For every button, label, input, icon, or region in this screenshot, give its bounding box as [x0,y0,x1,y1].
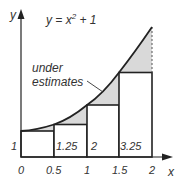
riemann-sum-diagram: y x y = x2 + 1 under estimates 1 1.25 2 … [0,0,185,181]
x-tick-1: 1 [84,164,90,176]
x-tick-2: 2 [148,164,155,176]
x-axis-arrow-icon [162,154,173,161]
x-axis-label: x [167,165,175,179]
rect-1 [21,131,54,157]
equation-title: y = x2 + 1 [45,12,97,27]
rect-3-label: 2 [90,140,97,152]
x-tick-0-5: 0.5 [46,164,62,176]
annotation-estimates: estimates [32,75,83,89]
x-tick-0: 0 [18,164,25,176]
x-tick-1-5: 1.5 [112,164,128,176]
annotation-leader [87,81,103,92]
rect-1-label: 1 [11,140,17,152]
y-axis-label: y [9,8,17,22]
rect-4-label: 3.25 [120,140,142,152]
rect-2-label: 1.25 [56,140,78,152]
annotation-under: under [32,61,64,75]
y-axis-arrow-icon [18,9,25,19]
